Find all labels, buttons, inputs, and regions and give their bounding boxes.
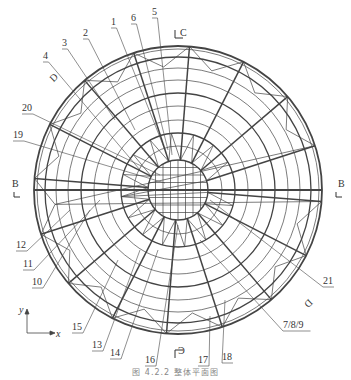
section-marker-C-top: C [180,27,187,38]
axis-y-label: y [19,304,23,315]
member-label: 19 [13,130,23,140]
member-label: 21 [323,276,333,286]
member-label: 10 [32,277,42,287]
member-label: 1 [111,17,116,27]
section-marker-B-left: B [12,178,19,189]
member-label: 13 [92,340,102,350]
axis-x-label: x [56,328,60,339]
member-label: 14 [110,348,120,358]
figure-caption: 图 4.2.2 整体平面图 [0,366,351,377]
member-label: 2 [83,28,88,38]
member-label: 17 [198,355,208,365]
member-label: 18 [222,352,232,362]
member-label: 15 [72,322,82,332]
member-label: 6 [131,13,136,23]
member-label: 5 [152,7,157,17]
member-label: 3 [62,38,67,48]
member-label: 12 [16,240,26,250]
coordinate-axes [25,309,55,335]
member-label: 20 [22,103,32,113]
leader-lines [13,18,334,366]
member-label: 4 [43,51,48,61]
section-marker-B-right: B [338,178,345,189]
member-label: 7/8/9 [283,320,304,330]
section-marker-C-bottom: C [178,345,185,356]
member-label: 11 [23,259,33,269]
member-label: 16 [145,355,155,365]
